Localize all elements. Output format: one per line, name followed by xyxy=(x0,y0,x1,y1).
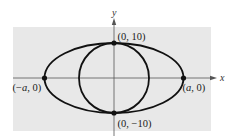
label-right-point: (a, 0) xyxy=(183,82,206,94)
label-top-point: (0, 10) xyxy=(118,31,146,43)
point-right xyxy=(181,75,186,80)
point-left xyxy=(42,75,47,80)
x-axis-label: x xyxy=(219,72,225,83)
y-axis-label: y xyxy=(111,7,117,18)
point-top xyxy=(111,40,116,45)
label-left-point: (−a, 0) xyxy=(13,82,42,94)
ellipse-circle-diagram: x y (0, 10) (0, −10) (−a, 0) (a, 0) xyxy=(0,0,236,139)
y-axis-arrow-icon xyxy=(112,18,116,25)
x-axis-arrow-icon xyxy=(210,76,217,80)
label-bottom-point: (0, −10) xyxy=(118,118,152,130)
point-bottom xyxy=(111,110,116,115)
